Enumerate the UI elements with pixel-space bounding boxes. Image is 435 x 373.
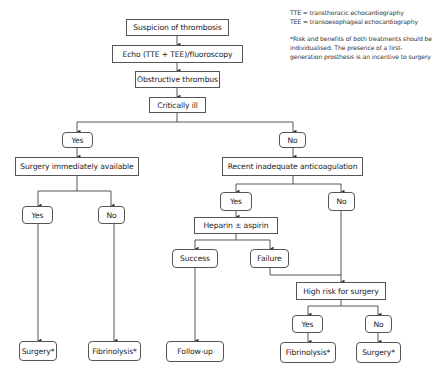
node-outcome-surgery-right: Surgery* <box>356 342 401 363</box>
node-critically-ill-no: No <box>279 132 306 148</box>
node-surgery-immediately-available: Surgery immediately available <box>15 157 139 176</box>
legend: TTE = transthoracic echocardiography TEE… <box>290 8 432 61</box>
legend-footnote: *Risk and benefits of both treatments sh… <box>290 34 432 62</box>
node-outcome-surgery-left: Surgery* <box>19 341 57 361</box>
node-success: Success <box>172 249 218 268</box>
node-obstructive-thrombus: Obstructive thrombus <box>135 71 220 88</box>
flowchart: Suspicion of thrombosis Echo (TTE + TEE)… <box>0 0 435 373</box>
node-failure: Failure <box>250 249 289 268</box>
node-follow-up: Follow-up <box>166 341 224 362</box>
node-anticoagulation-no: No <box>328 192 355 211</box>
node-surgery-available-no: No <box>98 206 125 224</box>
node-suspicion-of-thrombosis: Suspicion of thrombosis <box>126 19 229 36</box>
node-high-risk-for-surgery: High risk for surgery <box>296 282 386 300</box>
node-anticoagulation-yes: Yes <box>220 192 252 211</box>
node-high-risk-no: No <box>365 315 392 333</box>
node-echo: Echo (TTE + TEE)/fluoroscopy <box>112 45 243 63</box>
node-surgery-available-yes: Yes <box>22 206 53 224</box>
legend-abbreviation-tte: TTE = transthoracic echocardiography <box>290 8 432 17</box>
node-critically-ill-yes: Yes <box>62 132 93 148</box>
node-recent-inadequate-anticoagulation: Recent inadequate anticoagulation <box>222 157 363 176</box>
node-critically-ill: Critically ill <box>149 97 206 113</box>
node-outcome-fibrinolysis-right: Fibrinolysis* <box>280 342 336 363</box>
node-heparin-aspirin: Heparin ± aspirin <box>194 217 278 234</box>
legend-abbreviation-tee: TEE = transoesophageal echocardiography <box>290 17 432 26</box>
node-high-risk-yes: Yes <box>292 315 323 333</box>
node-outcome-fibrinolysis-left: Fibrinolysis* <box>88 341 141 361</box>
